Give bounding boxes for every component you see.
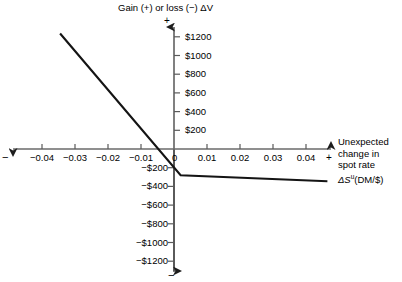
y-tick-label-positive: $600 [185,87,206,98]
x-axis-title-line-1: Unexpected [338,136,389,148]
y-axis-negative-sign: − [168,270,174,281]
x-tick-label: 0.01 [190,152,224,163]
x-axis-title-line-3: spot rate [338,159,389,171]
x-tick-label: −0.03 [58,152,92,163]
x-tick-label: −0.02 [91,152,125,163]
x-axis-title: Unexpected change in spot rate ΔSu(DM/$) [338,136,389,185]
x-axis-negative-sign: − [2,152,8,163]
y-tick-label-negative: −$1200 [122,255,168,266]
x-tick-label: 0.04 [289,152,323,163]
y-tick-label-negative: −$600 [122,199,168,210]
y-tick-label-negative: −$400 [122,180,168,191]
y-tick-label-negative: −$1000 [122,237,168,248]
y-tick-label-positive: $1200 [185,31,211,42]
x-axis-title-symbol: ΔS [338,174,351,185]
y-tick-label-positive: $1000 [185,50,211,61]
x-tick-label-zero: 0 [172,152,177,163]
x-axis-title-line-4: ΔSu(DM/$) [338,171,389,186]
y-tick-label-negative: −$800 [122,218,168,229]
y-tick-label-positive: $200 [185,124,206,135]
y-axis-positive-sign: + [164,15,170,26]
x-tick-label: −0.04 [25,152,59,163]
x-axis-title-line-2: change in [338,148,389,160]
y-tick-label-positive: $800 [185,68,206,79]
y-axis-title: Gain (+) or loss (−) ΔV [118,2,213,13]
x-axis-title-units: (DM/$) [354,174,383,185]
x-tick-label: 0.03 [256,152,290,163]
chart-figure: Gain (+) or loss (−) ΔV + − − + Unexpect… [0,0,402,282]
x-tick-label: 0.02 [223,152,257,163]
y-tick-label-positive: $400 [185,106,206,117]
y-tick-label-negative: −$200 [122,162,168,173]
x-axis-positive-sign: + [326,152,332,163]
